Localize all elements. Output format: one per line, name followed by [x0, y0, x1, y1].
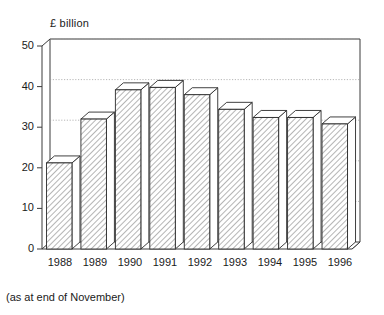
bar-1990 [115, 83, 148, 249]
chart-plot-area [0, 0, 384, 315]
bar-series [46, 80, 355, 249]
bar-1992 [184, 88, 217, 249]
axis-tickmarks [37, 46, 42, 249]
bar-1996 [322, 117, 355, 249]
bar-1994 [253, 110, 286, 249]
bar-1989 [81, 112, 114, 249]
chart-container: £ billion 50 40 30 20 10 0 1988 1989 199… [0, 0, 384, 315]
bar-1995 [288, 110, 321, 249]
bar-1993 [219, 102, 252, 249]
bar-1988 [46, 156, 79, 249]
bar-1991 [150, 80, 183, 249]
